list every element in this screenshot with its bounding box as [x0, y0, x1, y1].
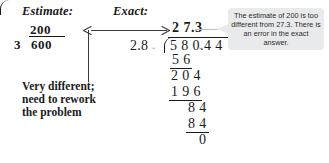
rework-annotation-line2: need to rework: [22, 93, 96, 106]
step-2-subtrahend: 1 9 6: [171, 84, 201, 100]
dividend-decimal-caret-icon: ˇ: [199, 47, 202, 56]
callout-text: The estimate of 200 is too different fro…: [230, 11, 322, 47]
callout-leader-line: [196, 29, 218, 30]
divisor-decimal-caret-icon: ˇ: [152, 47, 155, 56]
arrow-left-icon: [82, 25, 94, 36]
step-3-subtrahend: 8 4: [188, 116, 207, 132]
estimate-heading: Estimate:: [22, 4, 73, 19]
rework-annotation-line1: Very different;: [22, 80, 96, 93]
rework-annotation: Very different; need to rework the probl…: [22, 80, 96, 120]
comparison-connector-line: [91, 30, 167, 31]
estimate-division-bracket: [0, 0, 9, 15]
comparison-connector-stem: [88, 30, 89, 82]
exact-divisor: 2.8: [130, 38, 148, 54]
rework-annotation-line3: the problem: [22, 106, 96, 119]
estimate-divisor: 3: [14, 37, 21, 53]
final-remainder: 0: [199, 132, 206, 148]
step-2-remainder: 8 4: [188, 100, 207, 116]
step-1-subtrahend: 5 6: [172, 52, 191, 68]
arrow-right-icon: [159, 25, 171, 36]
exact-heading: Exact:: [113, 4, 148, 19]
worksheet-canvas: Estimate: Exact: 200 3 600 Very differen…: [0, 0, 329, 163]
step-1-remainder: 2 0 4: [171, 68, 201, 84]
estimate-dividend: 600: [31, 37, 52, 53]
